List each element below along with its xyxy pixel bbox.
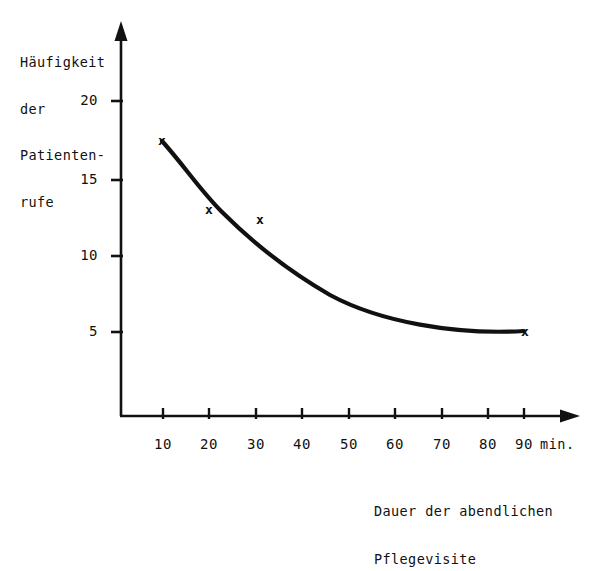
y-tick-label-5: 5 (64, 324, 98, 338)
x-tick-label-50: 50 (334, 437, 364, 451)
data-curve (162, 141, 524, 332)
data-point-marker-4: x (521, 325, 529, 338)
x-tick-label-20: 20 (194, 437, 224, 451)
figure-caption-line-2: Pflegevisite (374, 551, 553, 567)
x-tick-label-10: 10 (148, 437, 178, 451)
y-tick-label-10: 10 (64, 248, 98, 262)
figure-caption-line-1: Dauer der abendlichen (374, 503, 553, 519)
data-point-marker-1: x (158, 134, 166, 147)
x-tick-label-70: 70 (427, 437, 457, 451)
x-axis-unit-label: min. (540, 437, 575, 451)
y-tick-label-15: 15 (64, 172, 98, 186)
x-tick-label-30: 30 (241, 437, 271, 451)
y-axis-label-line-4: rufe (20, 195, 105, 211)
data-point-marker-2: x (205, 203, 213, 216)
y-axis-arrowhead (115, 21, 128, 41)
data-point-marker-3: x (256, 213, 264, 226)
figure-caption: Dauer der abendlichen Pflegevisite (374, 471, 553, 571)
x-tick-label-90: 90 (509, 437, 539, 451)
x-axis-arrowhead (560, 410, 580, 423)
y-tick-label-20: 20 (64, 93, 98, 107)
y-axis-label: Häufigkeit der Patienten- rufe (20, 24, 105, 241)
x-tick-label-60: 60 (380, 437, 410, 451)
x-tick-label-80: 80 (473, 437, 503, 451)
x-tick-label-40: 40 (287, 437, 317, 451)
y-axis-label-line-1: Häufigkeit (20, 55, 105, 71)
y-axis-label-line-3: Patienten- (20, 148, 105, 164)
